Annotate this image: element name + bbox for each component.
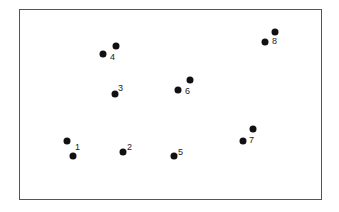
point-dot-7-1 <box>240 138 247 145</box>
point-dot-7-2 <box>250 126 257 133</box>
point-label-1: 1 <box>75 143 80 152</box>
point-label-7: 7 <box>249 136 254 145</box>
point-dot-5-1 <box>171 153 178 160</box>
point-dot-4-2 <box>113 43 120 50</box>
point-dot-1-2 <box>70 153 77 160</box>
point-label-2: 2 <box>127 143 132 152</box>
point-dot-4-1 <box>100 51 107 58</box>
point-label-6: 6 <box>185 87 190 96</box>
point-dot-6-1 <box>175 87 182 94</box>
point-label-4: 4 <box>110 53 115 62</box>
point-label-3: 3 <box>118 84 123 93</box>
point-dot-2-1 <box>120 149 127 156</box>
point-dot-6-2 <box>187 77 194 84</box>
point-label-8: 8 <box>272 37 277 46</box>
point-dot-8-1 <box>262 39 269 46</box>
point-label-5: 5 <box>178 148 183 157</box>
point-dot-8-2 <box>272 29 279 36</box>
point-dot-1-1 <box>64 138 71 145</box>
